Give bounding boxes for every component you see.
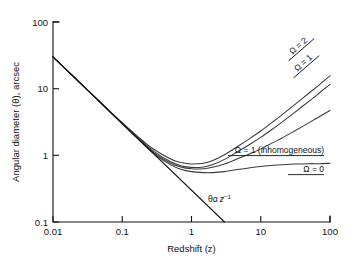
x-tick-label-0.1: 0.1 [116, 226, 129, 237]
x-axis-title: Redshift (z) [167, 243, 216, 254]
x-axis-ticks [53, 216, 330, 222]
x-tick-label-1: 1 [189, 226, 194, 237]
label-theta-relation: θαz−1 [208, 193, 232, 205]
label-omega-0: Ω = 0 [303, 164, 324, 174]
label-theta-relation-group: θαz−1 [208, 193, 232, 205]
data-curves [53, 57, 330, 222]
y-axis-title: Angular diameter (θ), arcsec [10, 62, 21, 182]
y-axis-ticks [53, 22, 59, 222]
reference-line-theta-prop-z-inverse [53, 57, 225, 222]
angular-diameter-redshift-figure: 100 10 1 0.1 0.01 0.1 1 10 100 Redshift … [0, 0, 355, 270]
label-omega-0-group: Ω = 0 [288, 164, 324, 175]
y-tick-label-100: 100 [32, 17, 48, 28]
x-tick-label-100: 100 [322, 226, 338, 237]
x-tick-label-10: 10 [255, 226, 266, 237]
x-tick-label-0.01: 0.01 [44, 226, 63, 237]
alpha-glyph: α [213, 194, 218, 204]
exponent-glyph: −1 [224, 193, 232, 200]
y-axis-tick-labels: 100 10 1 0.1 [32, 17, 48, 228]
curve-labels: Ω = 2 Ω = 1 Ω = 1 (inhomogeneous) Ω = 0 [208, 31, 324, 204]
chart-canvas: 100 10 1 0.1 0.01 0.1 1 10 100 Redshift … [0, 0, 355, 270]
x-axis-tick-labels: 0.01 0.1 1 10 100 [44, 226, 338, 237]
label-omega-1-inhomo-group: Ω = 1 (inhomogeneous) [228, 145, 324, 156]
y-tick-label-10: 10 [37, 83, 48, 94]
label-omega-1-inhomogeneous: Ω = 1 (inhomogeneous) [235, 145, 324, 155]
y-tick-label-1: 1 [43, 150, 48, 161]
